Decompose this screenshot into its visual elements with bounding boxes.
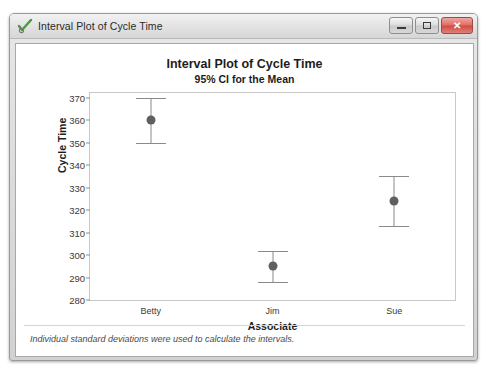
chart-footnote: Individual standard deviations were used… xyxy=(30,334,294,344)
interval-upper-cap xyxy=(258,251,288,252)
maximize-button[interactable] xyxy=(415,17,439,34)
minitab-check-icon xyxy=(17,18,33,34)
y-tick-mark xyxy=(86,210,90,211)
y-tick-label: 280 xyxy=(51,295,85,306)
window-controls: ✕ xyxy=(389,17,473,34)
desktop-background: Interval Plot of Cycle Time ✕ Interval P… xyxy=(0,0,495,376)
chart-subtitle: 95% CI for the Mean xyxy=(16,73,473,85)
y-tick-mark xyxy=(86,255,90,256)
interval-lower-cap xyxy=(379,226,409,227)
maximize-icon xyxy=(423,22,431,29)
chart-title: Interval Plot of Cycle Time xyxy=(16,57,473,71)
window-titlebar[interactable]: Interval Plot of Cycle Time ✕ xyxy=(10,14,477,39)
mean-marker xyxy=(268,262,277,271)
plot-frame: Cycle Time 28029030031032033034035036037… xyxy=(89,92,456,301)
window-title: Interval Plot of Cycle Time xyxy=(38,20,163,32)
interval-plot: Interval Plot of Cycle Time 95% CI for t… xyxy=(16,44,473,356)
x-tick-label: Jim xyxy=(266,306,280,316)
interval-upper-cap xyxy=(136,98,166,99)
y-tick-label: 300 xyxy=(51,250,85,261)
minimize-button[interactable] xyxy=(389,17,413,34)
y-tick-mark xyxy=(86,120,90,121)
y-tick-mark xyxy=(86,232,90,233)
interval-upper-cap xyxy=(379,176,409,177)
y-tick-label: 320 xyxy=(51,205,85,216)
x-tick-label: Sue xyxy=(386,306,402,316)
interval-lower-cap xyxy=(258,282,288,283)
x-tick-label: Betty xyxy=(141,306,162,316)
y-tick-label: 350 xyxy=(51,137,85,148)
footnote-divider xyxy=(24,325,465,326)
y-tick-label: 360 xyxy=(51,115,85,126)
x-axis-label: Associate xyxy=(90,320,455,332)
mean-marker xyxy=(390,197,399,206)
close-icon: ✕ xyxy=(453,21,461,31)
y-tick-label: 290 xyxy=(51,272,85,283)
minimize-icon xyxy=(397,27,406,29)
y-tick-mark xyxy=(86,142,90,143)
mean-marker xyxy=(146,116,155,125)
close-button[interactable]: ✕ xyxy=(441,17,473,34)
y-tick-label: 310 xyxy=(51,227,85,238)
y-tick-mark xyxy=(86,187,90,188)
y-tick-mark xyxy=(86,300,90,301)
y-tick-mark xyxy=(86,277,90,278)
plot-window: Interval Plot of Cycle Time ✕ Interval P… xyxy=(9,13,478,361)
y-tick-label: 330 xyxy=(51,182,85,193)
y-tick-label: 370 xyxy=(51,92,85,103)
y-tick-label: 340 xyxy=(51,160,85,171)
chart-client-area: Interval Plot of Cycle Time 95% CI for t… xyxy=(15,43,474,357)
y-tick-mark xyxy=(86,165,90,166)
y-tick-mark xyxy=(86,97,90,98)
interval-lower-cap xyxy=(136,143,166,144)
